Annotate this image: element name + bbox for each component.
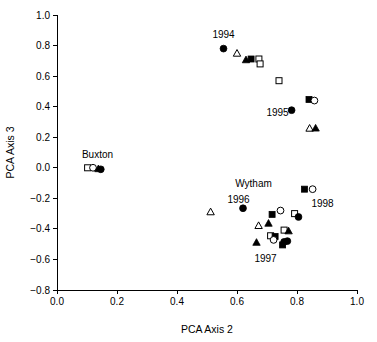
data-point-open-circle	[309, 186, 316, 193]
y-tick-label: 0.8	[36, 40, 50, 51]
y-tick-label: −0.8	[30, 285, 50, 296]
annotation-label: 1995	[266, 107, 289, 118]
data-point-filled-triangle	[265, 220, 272, 227]
x-tick-label: 0.2	[110, 296, 124, 307]
data-point-filled-circle	[295, 214, 302, 221]
data-point-filled-square	[248, 56, 254, 62]
data-point-filled-triangle	[312, 124, 319, 131]
data-point-filled-circle	[220, 45, 227, 52]
y-tick-label: 0.2	[36, 132, 50, 143]
data-point-filled-square	[302, 186, 308, 192]
x-tick-label: 0.6	[230, 296, 244, 307]
annotation-label: 1994	[212, 29, 235, 40]
x-tick-label: 1.0	[350, 296, 364, 307]
x-tick-label: 0.0	[50, 296, 64, 307]
ticks-group: 1.00.80.60.40.20.0−0.2−0.4−0.6−0.80.00.2…	[30, 10, 364, 308]
annotation-label: 1996	[227, 194, 250, 205]
data-point-filled-circle	[97, 166, 104, 173]
data-point-open-circle	[270, 236, 277, 243]
x-tick-label: 0.8	[290, 296, 304, 307]
y-tick-label: 0.6	[36, 71, 50, 82]
annotation-label: 1998	[311, 198, 334, 209]
x-axis-title: PCA Axis 2	[181, 323, 233, 335]
y-tick-label: 0.0	[36, 162, 50, 173]
y-tick-label: −0.2	[30, 193, 50, 204]
data-point-open-square	[257, 61, 263, 67]
data-point-open-square	[276, 78, 282, 84]
data-point-open-triangle	[207, 208, 214, 215]
data-point-filled-circle	[240, 205, 247, 212]
annotation-label: Wytham	[235, 178, 272, 189]
data-point-open-triangle	[233, 50, 240, 57]
annotation-label: Buxton	[82, 149, 113, 160]
data-point-filled-triangle	[253, 239, 260, 246]
data-point-open-triangle	[255, 222, 262, 229]
data-point-filled-square	[280, 242, 286, 248]
data-point-filled-circle	[288, 107, 295, 114]
y-tick-label: −0.4	[30, 223, 50, 234]
y-tick-label: 0.4	[36, 101, 50, 112]
data-point-open-circle	[311, 97, 318, 104]
annotation-labels-group: 19941995BuxtonWytham199619971998	[82, 29, 334, 265]
y-tick-label: 1.0	[36, 10, 50, 21]
data-point-filled-square	[269, 211, 275, 217]
y-axis-title: PCA Axis 3	[4, 126, 16, 178]
data-point-open-circle	[277, 207, 284, 214]
x-tick-label: 0.4	[170, 296, 184, 307]
pca-scatter-figure: 1.00.80.60.40.20.0−0.2−0.4−0.6−0.80.00.2…	[0, 0, 377, 342]
annotation-label: 1997	[254, 253, 277, 264]
pca-scatter-plot: 1.00.80.60.40.20.0−0.2−0.4−0.6−0.80.00.2…	[0, 0, 377, 342]
data-points-group	[85, 45, 320, 248]
y-tick-label: −0.6	[30, 254, 50, 265]
